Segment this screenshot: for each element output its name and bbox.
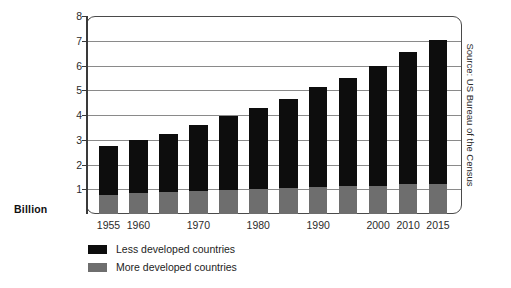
legend-item-more-developed[interactable]: More developed countries — [88, 260, 237, 275]
bar-segment-less-developed — [369, 66, 388, 186]
y-tick-label-3: 3 — [60, 135, 82, 145]
bar-segment-less-developed — [339, 78, 358, 186]
x-tick-label-1960: 1960 — [127, 219, 150, 231]
bar-segment-more-developed — [189, 191, 208, 214]
bar-1985[interactable] — [279, 99, 298, 214]
y-tick-label-1: 1 — [60, 184, 82, 194]
bar-segment-less-developed — [189, 125, 208, 191]
y-tick-label-2: 2 — [60, 160, 82, 170]
bar-2000[interactable] — [369, 66, 388, 215]
x-tick-label-1955: 1955 — [97, 219, 120, 231]
y-tick-label-6: 6 — [60, 61, 82, 71]
bar-segment-more-developed — [429, 184, 448, 214]
source-note: Source: US Bureau of the Census — [462, 16, 478, 214]
bar-segment-less-developed — [279, 99, 298, 188]
bar-segment-more-developed — [309, 187, 328, 214]
bar-segment-less-developed — [399, 52, 418, 184]
legend-swatch-icon — [88, 263, 107, 272]
bar-1990[interactable] — [309, 87, 328, 214]
y-tick-mark-5 — [82, 90, 87, 91]
y-tick-mark-1 — [82, 189, 87, 190]
y-tick-mark-3 — [82, 140, 87, 141]
bar-segment-more-developed — [279, 188, 298, 214]
x-tick-label-1980: 1980 — [247, 219, 270, 231]
bar-segment-more-developed — [339, 186, 358, 214]
legend-label: More developed countries — [116, 262, 237, 273]
y-tick-label-5: 5 — [60, 85, 82, 95]
y-tick-label-8: 8 — [60, 11, 82, 21]
bar-segment-more-developed — [159, 192, 178, 214]
bar-segment-less-developed — [249, 108, 268, 190]
x-axis-tick-labels: 19551960197019801990200020102015 — [86, 219, 462, 233]
y-tick-mark-4 — [82, 115, 87, 116]
y-tick-mark-2 — [82, 165, 87, 166]
bar-1975[interactable] — [219, 116, 238, 214]
y-tick-mark-8 — [82, 16, 87, 17]
bar-1970[interactable] — [189, 125, 208, 214]
y-tick-label-7: 7 — [60, 36, 82, 46]
y-tick-mark-6 — [82, 66, 87, 67]
x-tick-label-2015: 2015 — [426, 219, 449, 231]
bar-1980[interactable] — [249, 108, 268, 214]
bar-segment-more-developed — [249, 189, 268, 214]
legend-label: Less developed countries — [116, 244, 235, 255]
bar-segment-more-developed — [399, 184, 418, 214]
y-tick-label-4: 4 — [60, 110, 82, 120]
x-tick-label-1970: 1970 — [187, 219, 210, 231]
chart-root: 12345678 1955196019701980199020002010201… — [0, 0, 511, 288]
bar-segment-less-developed — [99, 146, 118, 195]
bar-1955[interactable] — [99, 146, 118, 214]
legend-item-less-developed[interactable]: Less developed countries — [88, 242, 237, 257]
bar-1995[interactable] — [339, 78, 358, 214]
bar-2010[interactable] — [399, 52, 418, 214]
bar-segment-more-developed — [129, 193, 148, 214]
bar-segment-more-developed — [99, 195, 118, 214]
bar-segment-less-developed — [219, 116, 238, 190]
bar-segment-less-developed — [309, 87, 328, 188]
source-note-text: Source: US Bureau of the Census — [465, 43, 476, 186]
y-axis-tick-labels: 12345678 — [56, 0, 82, 288]
bar-segment-more-developed — [219, 190, 238, 214]
bar-1960[interactable] — [129, 140, 148, 214]
bar-2015[interactable] — [429, 40, 448, 214]
bar-segment-less-developed — [129, 140, 148, 194]
bar-segment-more-developed — [369, 186, 388, 214]
bar-segment-less-developed — [159, 134, 178, 193]
chart-legend: Less developed countriesMore developed c… — [88, 242, 237, 278]
bar-segment-less-developed — [429, 40, 448, 184]
x-tick-label-1990: 1990 — [307, 219, 330, 231]
y-axis-title: Billion — [14, 203, 47, 215]
legend-swatch-icon — [88, 245, 107, 254]
x-tick-label-2000: 2000 — [366, 219, 389, 231]
x-tick-label-2010: 2010 — [396, 219, 419, 231]
bars-layer — [86, 16, 462, 214]
y-tick-mark-7 — [82, 41, 87, 42]
bar-1965[interactable] — [159, 134, 178, 214]
